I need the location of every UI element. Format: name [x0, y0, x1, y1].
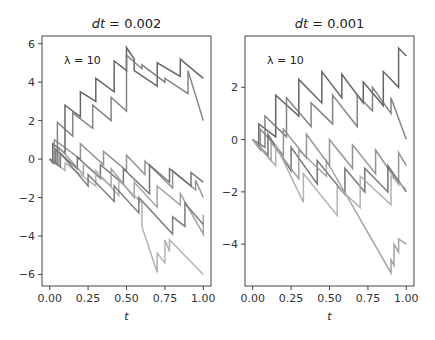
- x-axis-label: t: [124, 310, 129, 323]
- x-tick-label: 0.00: [37, 292, 62, 305]
- x-tick-label: 0.50: [114, 292, 139, 305]
- x-tick-label: 0.25: [76, 292, 101, 305]
- y-tick-label: −4: [19, 230, 35, 243]
- y-tick-label: 2: [28, 115, 35, 128]
- x-tick-label: 0.75: [356, 292, 381, 305]
- y-tick-label: 0: [231, 134, 238, 147]
- y-tick-label: 6: [28, 38, 35, 51]
- subplot-2: 0.000.250.500.751.0020−2−4dt = 0.001λ = …: [222, 16, 419, 323]
- y-tick-label: −4: [222, 238, 238, 251]
- x-tick-label: 1.00: [394, 292, 419, 305]
- lambda-annotation: λ = 10: [64, 54, 101, 67]
- figure: 0.000.250.500.751.006420−2−4−6dt = 0.002…: [0, 0, 435, 340]
- x-axis-label: t: [327, 310, 332, 323]
- subplot-1: 0.000.250.500.751.006420−2−4−6dt = 0.002…: [19, 16, 216, 323]
- x-tick-label: 0.25: [279, 292, 304, 305]
- subplot-title: dt = 0.002: [92, 16, 162, 31]
- y-tick-label: −6: [19, 268, 35, 281]
- y-tick-label: 2: [231, 81, 238, 94]
- y-tick-label: −2: [19, 192, 35, 205]
- y-tick-label: 4: [28, 76, 35, 89]
- y-tick-label: −2: [222, 186, 238, 199]
- lambda-annotation: λ = 10: [267, 54, 304, 67]
- x-tick-label: 0.75: [153, 292, 178, 305]
- x-tick-label: 1.00: [191, 292, 216, 305]
- subplot-title: dt = 0.001: [295, 16, 365, 31]
- y-tick-label: 0: [28, 153, 35, 166]
- x-tick-label: 0.00: [240, 292, 265, 305]
- x-tick-label: 0.50: [317, 292, 342, 305]
